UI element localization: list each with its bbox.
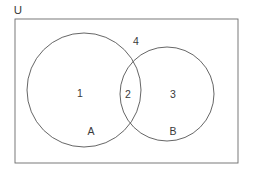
universe-label: U (14, 4, 22, 16)
set-a-circle (27, 33, 141, 147)
region-label-b-only: 3 (170, 88, 176, 100)
set-b-circle (120, 47, 214, 141)
set-a-label: A (87, 125, 94, 137)
region-label-a-only: 1 (77, 87, 83, 99)
region-label-intersection: 2 (125, 88, 131, 100)
region-label-outside: 4 (133, 35, 139, 47)
set-b-label: B (169, 125, 176, 137)
venn-diagram-svg: U 1 2 3 4 A B (0, 0, 253, 171)
venn-diagram-canvas: U 1 2 3 4 A B (0, 0, 253, 171)
